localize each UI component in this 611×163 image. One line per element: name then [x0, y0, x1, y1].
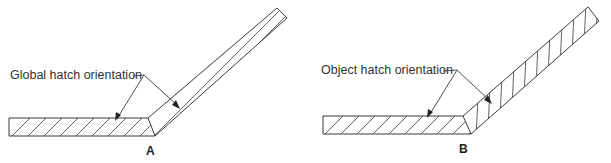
hatch-orientation-diagram: Global hatch orientation A: [0, 0, 611, 163]
figure-a-label: A: [146, 144, 155, 158]
figure-b-callout: Object hatch orientation: [321, 63, 453, 77]
figure-b-horizontal-hatch: [313, 106, 497, 146]
figure-a: Global hatch orientation A: [0, 0, 302, 158]
figure-b-arm-hatch: [476, 0, 598, 140]
figure-a-horizontal-hatch: [0, 108, 184, 148]
figure-b-label: B: [459, 142, 468, 156]
figure-b-joint-line: [463, 116, 471, 134]
figure-b-leader: [427, 70, 492, 118]
figure-b: Object hatch orientation B: [313, 0, 599, 156]
figure-a-callout: Global hatch orientation: [10, 68, 142, 82]
